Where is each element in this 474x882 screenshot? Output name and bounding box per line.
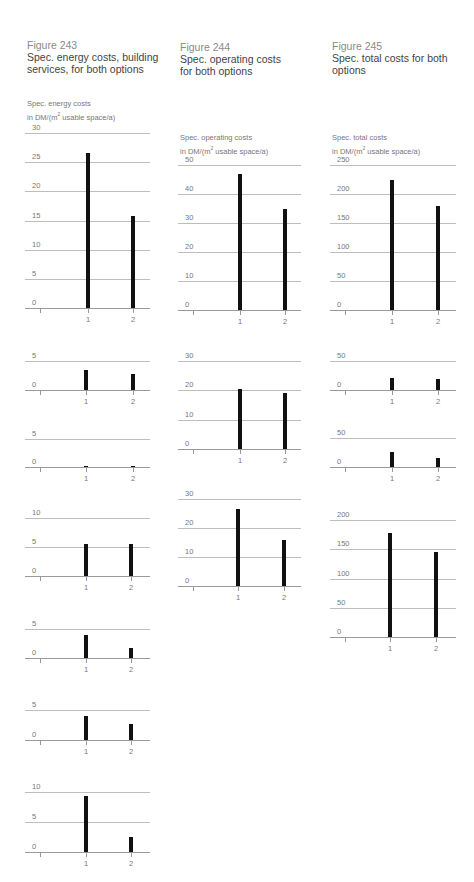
unit-text: in DM/(m: [27, 113, 57, 122]
x-tick-label: 1: [81, 748, 91, 756]
unit-text: usable space/a): [213, 147, 268, 156]
x-tick: [86, 659, 87, 663]
y-tick-label: 5: [32, 813, 36, 821]
y-tick-label: 10: [185, 548, 193, 556]
gridline: [330, 549, 456, 550]
y-axis-unit-label: Spec. energy costs in DM/(m2 usable spac…: [27, 99, 115, 123]
origin-tick: [345, 468, 346, 472]
x-tick: [133, 391, 134, 395]
bar-option-2: [129, 724, 133, 740]
x-tick: [131, 577, 132, 581]
bar-option-1: [84, 544, 88, 576]
y-tick-label: 150: [337, 214, 350, 222]
x-tick: [133, 309, 134, 313]
gridline: [25, 439, 150, 440]
y-tick-label: 20: [32, 182, 40, 190]
x-tick: [438, 311, 439, 315]
y-tick-label: 0: [337, 628, 341, 636]
x-tick: [438, 468, 439, 472]
x-tick-label: 1: [83, 316, 93, 324]
y-tick-label: 100: [337, 243, 350, 251]
x-tick-label: 1: [385, 645, 395, 653]
bar-option-2: [282, 540, 286, 586]
origin-tick: [345, 638, 346, 642]
x-tick: [285, 311, 286, 315]
gridline: [178, 165, 301, 166]
y-tick-label: 0: [185, 440, 189, 448]
y-tick-label: 50: [185, 156, 193, 164]
gridline: [25, 710, 150, 711]
gridline: [330, 438, 456, 439]
origin-tick: [40, 659, 41, 663]
unit-line: Spec. operating costs: [180, 133, 268, 143]
bar-option-2: [129, 544, 133, 576]
x-tick: [238, 587, 239, 591]
y-tick-label: 10: [185, 272, 193, 280]
x-tick: [88, 309, 89, 313]
x-tick-label: 2: [126, 748, 136, 756]
y-tick-label: 200: [337, 185, 350, 193]
x-tick-label: 2: [279, 594, 289, 602]
x-tick: [392, 391, 393, 395]
bar-option-2: [131, 466, 135, 467]
y-tick-label: 0: [337, 301, 341, 309]
bar-option-2: [129, 648, 133, 658]
gridline: [330, 165, 456, 166]
y-tick-label: 0: [32, 381, 36, 389]
unit-line: Spec. energy costs: [27, 99, 115, 109]
figure-title: for both options: [180, 65, 281, 77]
unit-text: usable space/a): [365, 147, 420, 156]
x-axis-baseline: [178, 586, 301, 587]
x-tick-label: 2: [433, 398, 443, 406]
x-tick: [86, 391, 87, 395]
x-tick-label: 1: [233, 594, 243, 602]
x-axis-baseline: [25, 390, 150, 391]
y-tick-label: 0: [185, 301, 189, 309]
x-tick: [240, 311, 241, 315]
y-tick-label: 20: [185, 243, 193, 251]
bar-option-1: [390, 452, 394, 467]
origin-tick: [40, 309, 41, 313]
figure-number: Figure 243: [27, 39, 158, 51]
gridline: [25, 792, 150, 793]
y-tick-label: 0: [32, 567, 36, 575]
x-tick: [86, 741, 87, 745]
y-tick-label: 30: [185, 490, 193, 498]
x-tick-label: 2: [126, 584, 136, 592]
bar-option-2: [283, 209, 287, 311]
x-axis-baseline: [25, 467, 150, 468]
gridline: [25, 518, 150, 519]
x-axis-baseline: [330, 637, 456, 638]
x-tick-label: 1: [81, 398, 91, 406]
origin-tick: [193, 587, 194, 591]
y-tick-label: 50: [337, 429, 345, 437]
y-tick-label: 5: [32, 430, 36, 438]
y-tick-label: 5: [32, 701, 36, 709]
x-tick-label: 2: [126, 860, 136, 868]
bar-option-1: [84, 370, 88, 390]
bar-option-1: [84, 635, 88, 658]
y-tick-label: 5: [32, 270, 36, 278]
unit-line: Spec. total costs: [332, 133, 420, 143]
x-tick: [86, 468, 87, 472]
x-tick-label: 1: [81, 860, 91, 868]
y-axis-unit-label: Spec. total costs in DM/(m2 usable space…: [332, 133, 420, 157]
x-tick-label: 1: [81, 666, 91, 674]
x-tick-label: 2: [128, 398, 138, 406]
y-tick-label: 50: [337, 599, 345, 607]
unit-line: in DM/(m2 usable space/a): [27, 109, 115, 123]
x-tick: [392, 311, 393, 315]
gridline: [25, 629, 150, 630]
y-tick-label: 5: [32, 352, 36, 360]
x-tick-label: 2: [126, 666, 136, 674]
bar-option-1: [238, 389, 242, 449]
y-tick-label: 5: [32, 538, 36, 546]
gridline: [178, 361, 301, 362]
y-tick-label: 0: [32, 649, 36, 657]
x-tick-label: 2: [431, 645, 441, 653]
x-tick: [390, 638, 391, 642]
y-tick-label: 0: [32, 299, 36, 307]
gridline: [178, 499, 301, 500]
y-tick-label: 100: [337, 570, 350, 578]
x-tick-label: 1: [81, 475, 91, 483]
